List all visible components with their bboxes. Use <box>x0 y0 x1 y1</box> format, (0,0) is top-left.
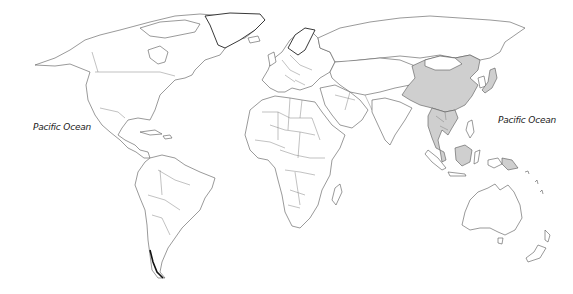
australia <box>462 184 522 235</box>
sulawesi <box>474 150 480 164</box>
mainland-southeast-asia <box>428 108 458 150</box>
borneo <box>455 145 472 166</box>
africa <box>245 96 345 228</box>
new-zealand <box>526 230 550 262</box>
malay-peninsula <box>440 150 446 162</box>
west-papua <box>488 158 502 168</box>
india <box>372 98 412 145</box>
south-america <box>135 155 215 278</box>
java <box>448 172 466 176</box>
russia <box>318 16 525 62</box>
pacific-islands <box>525 171 543 194</box>
hispaniola <box>163 135 172 139</box>
iceland <box>248 36 260 43</box>
pacific-ocean-label-west: Pacific Ocean <box>33 122 91 132</box>
philippines <box>466 120 474 138</box>
cuba <box>140 130 162 135</box>
map-canvas <box>0 0 573 294</box>
pacific-ocean-label-east: Pacific Ocean <box>498 115 556 125</box>
papua-new-guinea <box>502 158 518 170</box>
madagascar <box>332 184 342 205</box>
tasmania <box>498 238 503 244</box>
